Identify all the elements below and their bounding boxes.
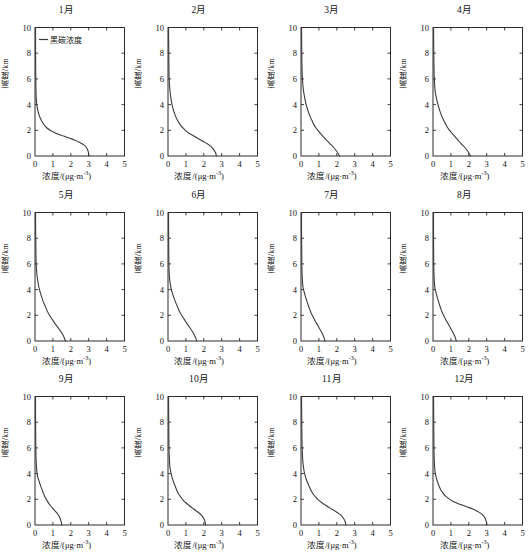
x-tick-label: 5 xyxy=(388,159,392,169)
plot-area: 0123450246810 xyxy=(0,185,133,370)
x-tick-label: 2 xyxy=(467,343,471,353)
y-tick-label: 6 xyxy=(160,258,164,268)
y-tick-label: 8 xyxy=(27,233,31,243)
plot-area: 0123450246810 xyxy=(266,185,399,370)
y-tick-label: 8 xyxy=(425,233,429,243)
x-tick-label: 3 xyxy=(87,159,91,169)
x-tick-label: 3 xyxy=(219,343,223,353)
x-tick-label: 0 xyxy=(166,528,170,538)
x-tick-label: 0 xyxy=(431,159,435,169)
legend: 黑碳浓度 xyxy=(39,35,82,45)
y-tick-label: 2 xyxy=(160,494,164,504)
x-tick-label: 2 xyxy=(69,528,73,538)
concentration-curve xyxy=(434,28,471,157)
x-tick-label: 4 xyxy=(503,528,508,538)
panel-month-1: 1月高度/km浓度/(μg·m-3)0123450246810黑碳浓度 xyxy=(0,0,133,185)
y-tick-label: 6 xyxy=(292,258,296,268)
x-tick-label: 5 xyxy=(388,343,392,353)
plot-area: 0123450246810 xyxy=(398,185,531,370)
panel-month-8: 8月高度/km浓度/(μg·m-3)0123450246810 xyxy=(398,185,531,370)
concentration-curve xyxy=(434,212,457,341)
panel-month-5: 5月高度/km浓度/(μg·m-3)0123450246810 xyxy=(0,185,133,370)
concentration-curve xyxy=(36,212,66,341)
plot-frame xyxy=(301,212,391,341)
concentration-curve xyxy=(36,28,89,157)
x-tick-label: 5 xyxy=(255,528,259,538)
y-tick-label: 10 xyxy=(155,207,164,217)
y-tick-label: 10 xyxy=(23,207,32,217)
y-tick-label: 2 xyxy=(27,494,31,504)
x-tick-label: 5 xyxy=(255,159,259,169)
y-tick-label: 8 xyxy=(160,417,164,427)
x-tick-label: 4 xyxy=(237,528,242,538)
x-tick-label: 5 xyxy=(521,159,525,169)
y-tick-label: 10 xyxy=(288,207,297,217)
x-tick-label: 3 xyxy=(219,159,223,169)
x-tick-label: 0 xyxy=(431,528,435,538)
x-tick-label: 0 xyxy=(166,159,170,169)
plot-area: 0123450246810 xyxy=(266,0,399,185)
plot-frame xyxy=(433,28,523,157)
x-tick-label: 0 xyxy=(298,343,302,353)
y-tick-label: 8 xyxy=(27,417,31,427)
y-tick-label: 6 xyxy=(425,74,429,84)
x-tick-label: 2 xyxy=(467,528,471,538)
panel-month-10: 10月高度/km浓度/(μg·m-3)0123450246810 xyxy=(133,369,266,554)
x-tick-label: 5 xyxy=(521,528,525,538)
y-tick-label: 10 xyxy=(155,23,164,33)
x-tick-label: 3 xyxy=(352,343,356,353)
x-tick-label: 4 xyxy=(503,159,508,169)
x-tick-label: 5 xyxy=(122,343,126,353)
plot-area: 0123450246810 xyxy=(0,369,133,554)
x-tick-label: 4 xyxy=(237,343,242,353)
x-tick-label: 4 xyxy=(237,159,242,169)
plot-frame xyxy=(168,397,258,526)
y-tick-label: 10 xyxy=(421,207,430,217)
y-tick-label: 4 xyxy=(292,284,297,294)
x-tick-label: 0 xyxy=(166,343,170,353)
x-tick-label: 2 xyxy=(69,343,73,353)
x-tick-label: 1 xyxy=(449,343,453,353)
y-tick-label: 2 xyxy=(425,310,429,320)
x-tick-label: 1 xyxy=(184,343,188,353)
x-tick-label: 4 xyxy=(370,159,375,169)
y-tick-label: 2 xyxy=(160,310,164,320)
y-tick-label: 0 xyxy=(425,336,429,346)
concentration-curve xyxy=(301,212,325,341)
panel-month-2: 2月高度/km浓度/(μg·m-3)0123450246810 xyxy=(133,0,266,185)
y-tick-label: 4 xyxy=(27,284,32,294)
panel-month-12: 12月高度/km浓度/(μg·m-3)0123450246810 xyxy=(398,369,531,554)
plot-frame xyxy=(301,397,391,526)
x-tick-label: 2 xyxy=(334,159,338,169)
y-tick-label: 2 xyxy=(292,125,296,135)
panel-month-7: 7月高度/km浓度/(μg·m-3)0123450246810 xyxy=(266,185,399,370)
y-tick-label: 6 xyxy=(27,258,31,268)
y-tick-label: 0 xyxy=(292,151,296,161)
plot-frame xyxy=(433,397,523,526)
x-tick-label: 5 xyxy=(255,343,259,353)
y-tick-label: 6 xyxy=(27,74,31,84)
x-tick-label: 0 xyxy=(298,528,302,538)
y-tick-label: 10 xyxy=(23,23,32,33)
y-tick-label: 4 xyxy=(292,100,297,110)
panel-month-11: 11月高度/km浓度/(μg·m-3)0123450246810 xyxy=(266,369,399,554)
y-tick-label: 4 xyxy=(160,100,165,110)
x-tick-label: 1 xyxy=(316,159,320,169)
y-tick-label: 0 xyxy=(160,151,164,161)
x-tick-label: 4 xyxy=(104,528,109,538)
x-tick-label: 1 xyxy=(51,528,55,538)
y-tick-label: 10 xyxy=(23,392,32,402)
panel-month-4: 4月高度/km浓度/(μg·m-3)0123450246810 xyxy=(398,0,531,185)
monthly-black-carbon-profile-figure: 1月高度/km浓度/(μg·m-3)0123450246810黑碳浓度2月高度/… xyxy=(0,0,531,554)
x-tick-label: 0 xyxy=(298,159,302,169)
concentration-curve xyxy=(434,397,487,526)
concentration-curve xyxy=(36,397,62,526)
x-tick-label: 1 xyxy=(51,343,55,353)
x-tick-label: 2 xyxy=(334,528,338,538)
x-tick-label: 4 xyxy=(370,528,375,538)
y-tick-label: 4 xyxy=(27,100,32,110)
y-tick-label: 2 xyxy=(425,494,429,504)
x-tick-label: 1 xyxy=(184,528,188,538)
x-tick-label: 4 xyxy=(370,343,375,353)
y-tick-label: 0 xyxy=(27,336,31,346)
